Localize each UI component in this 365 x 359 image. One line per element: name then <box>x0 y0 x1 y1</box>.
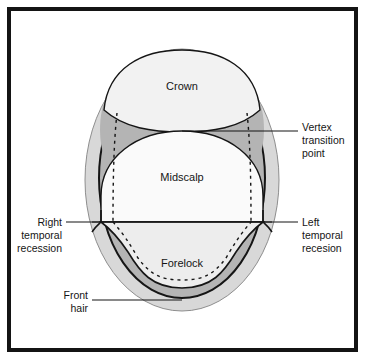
figure-root: Crown Midscalp Forelock Vertex transitio… <box>0 0 365 359</box>
callout-right-temporal-line-2: temporal <box>21 229 62 241</box>
callout-left-temporal-line-2: temporal <box>302 229 343 241</box>
region-label-crown: Crown <box>166 80 198 92</box>
callout-right-temporal-line-3: recession <box>17 242 62 254</box>
callout-front-hair: Front hair <box>63 289 88 314</box>
callout-front-hair-line-2: hair <box>70 302 88 314</box>
callout-left-temporal-line-1: Left <box>302 216 320 228</box>
callout-vertex-line-1: Vertex <box>302 121 333 133</box>
callout-left-temporal-recession: Left temporal recesion <box>302 216 343 254</box>
callout-vertex-line-3: point <box>302 147 325 159</box>
callout-right-temporal-line-1: Right <box>37 216 62 228</box>
scalp-diagram: Crown Midscalp Forelock Vertex transitio… <box>0 0 365 359</box>
region-label-forelock: Forelock <box>161 257 204 269</box>
callout-right-temporal-recession: Right temporal recession <box>17 216 62 254</box>
callout-vertex-line-2: transition <box>302 134 345 146</box>
callout-vertex-transition-point: Vertex transition point <box>302 121 345 159</box>
region-label-midscalp: Midscalp <box>160 171 203 183</box>
callout-left-temporal-line-3: recesion <box>302 242 342 254</box>
callout-front-hair-line-1: Front <box>63 289 88 301</box>
